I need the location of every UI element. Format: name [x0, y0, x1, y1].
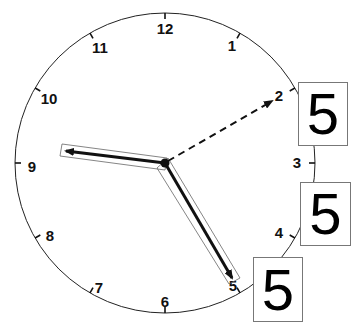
digit-box-1: 5: [298, 82, 348, 146]
minute-hand: [165, 163, 232, 278]
number-4: 4: [275, 224, 284, 241]
number-11: 11: [92, 39, 108, 56]
digit-box-3: 5: [253, 257, 303, 322]
number-2: 2: [275, 87, 283, 104]
number-5: 5: [229, 277, 237, 294]
dashed-hand: [168, 101, 272, 161]
number-1: 1: [228, 37, 236, 54]
hour-hand: [66, 151, 165, 163]
clock-face: 12 1 2 3 4 5 6 7 8 9 10 11: [0, 0, 359, 334]
number-6: 6: [161, 293, 169, 310]
number-12: 12: [157, 20, 174, 37]
digit-box-2: 5: [300, 182, 351, 246]
number-10: 10: [41, 90, 58, 107]
center-pin: [161, 159, 170, 168]
number-9: 9: [28, 158, 36, 175]
number-7: 7: [95, 279, 103, 296]
number-3: 3: [293, 154, 301, 171]
number-8: 8: [46, 227, 54, 244]
